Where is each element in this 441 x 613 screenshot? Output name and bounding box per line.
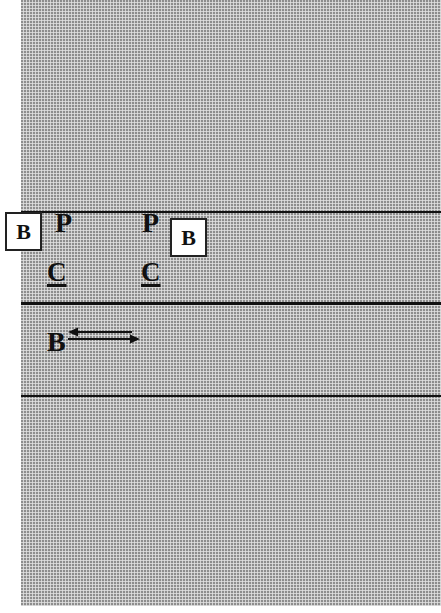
middle-boundary-line — [21, 302, 441, 305]
double-arrow-icon — [66, 326, 146, 346]
p-label-left: P — [55, 209, 72, 237]
boxed-b-left: B — [5, 212, 42, 251]
boxed-b-right: B — [170, 218, 207, 257]
c-label-right: C — [141, 259, 161, 286]
b-moving-label: B — [47, 328, 66, 356]
c-label-left: C — [47, 259, 67, 286]
right-arrow-icon — [68, 335, 140, 344]
p-label-right: P — [142, 209, 159, 237]
left-arrow-icon — [68, 328, 132, 337]
lower-boundary-line — [21, 395, 441, 397]
upper-boundary-line — [21, 211, 441, 213]
